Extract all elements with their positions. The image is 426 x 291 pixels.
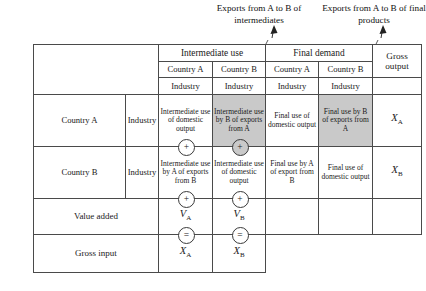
cell-b-final-export-from-b: Final use by A of export from B (266, 147, 319, 199)
header-industry-intermediate-b: Industry (213, 78, 266, 95)
cell-gross-input-gross (373, 235, 422, 273)
cell-gross-input-final-b (319, 235, 373, 273)
cell-value-added-final-b (319, 199, 373, 235)
operator-equals-icon: = (178, 227, 195, 244)
cell-b-final-domestic: Final use of domestic output (319, 147, 373, 199)
row-label-country-a: Country A (34, 95, 126, 147)
annotation-exports-final-products: Exports from A to B of final products (322, 3, 426, 26)
input-output-table: Intermediate use Final demand Gross outp… (33, 44, 422, 273)
header-industry-intermediate-a: Industry (159, 78, 213, 95)
header-country-final-b: Country B (319, 61, 373, 78)
row-label-country-b: Country B (34, 147, 126, 199)
header-group-final-demand: Final demand (266, 45, 373, 62)
cell-value-added-gross (373, 199, 422, 235)
cell-gross-input-a: = XA (159, 235, 213, 273)
header-country-final-a: Country A (266, 61, 319, 78)
row-industry-country-a: Industry (126, 95, 159, 147)
operator-plus-icon: + (178, 139, 195, 156)
table-row-country-b: Country B Industry + Intermediate use by… (34, 147, 422, 199)
cell-a-final-domestic: Final use of domestic output (266, 95, 319, 147)
header-industry-final-a: Industry (266, 78, 319, 95)
header-country-intermediate-b: Country B (213, 61, 266, 78)
header-gross-output: Gross output (373, 45, 422, 78)
row-industry-country-b: Industry (126, 147, 159, 199)
table-row-gross-input: Gross input = XA = XB (34, 235, 422, 273)
annotation-exports-intermediates: Exports from A to B of intermediates (196, 3, 322, 26)
operator-plus-icon: + (232, 191, 249, 208)
cell-a-final-exports-to-b: Final use by B of exports from A (319, 95, 373, 147)
header-gross-output-spacer (373, 78, 422, 95)
header-row-groups: Intermediate use Final demand Gross outp… (34, 45, 422, 62)
table-row-value-added: Value added + VA + VB (34, 199, 422, 235)
operator-equals-icon: = (232, 227, 249, 244)
cell-value-added-final-a (266, 199, 319, 235)
cell-b-gross-output: XB (373, 147, 422, 199)
operator-plus-icon: + (232, 139, 249, 156)
header-group-intermediate-use: Intermediate use (159, 45, 266, 62)
cell-gross-input-final-a (266, 235, 319, 273)
header-industry-final-b: Industry (319, 78, 373, 95)
cell-gross-input-b: = XB (213, 235, 266, 273)
row-label-value-added: Value added (34, 199, 159, 235)
header-country-intermediate-a: Country A (159, 61, 213, 78)
row-label-gross-input: Gross input (34, 235, 159, 273)
header-corner-cell (34, 45, 159, 95)
operator-plus-icon: + (178, 191, 195, 208)
cell-a-gross-output: XA (373, 95, 422, 147)
table-row-country-a: Country A Industry Intermediate use of d… (34, 95, 422, 147)
